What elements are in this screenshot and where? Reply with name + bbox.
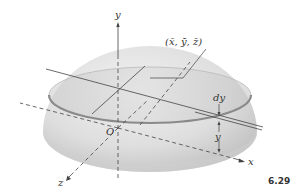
origin-label: O (106, 126, 114, 137)
y-axis-arrow-icon (116, 22, 119, 27)
x-axis-label: x (248, 156, 254, 167)
z-axis-arrow-icon (66, 176, 71, 182)
z-axis-label: z (57, 177, 64, 188)
y-axis-label: y (114, 9, 121, 20)
dy-label: dy (213, 92, 225, 103)
centroid-label: (x̄, ȳ, z̄) (165, 36, 202, 47)
hemisphere-diagram: y x z O (x̄, ȳ, z̄) dy y 6.29 (0, 0, 302, 194)
height-y-label: y (214, 131, 221, 142)
figure-number: 6.29 (268, 176, 290, 186)
x-axis-arrow-icon (239, 159, 246, 163)
